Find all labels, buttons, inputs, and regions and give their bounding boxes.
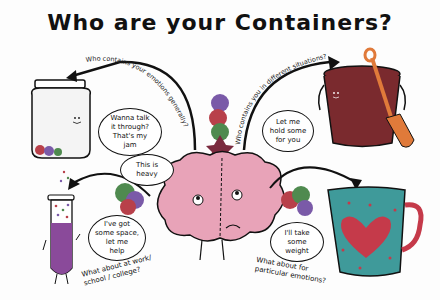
arrow-to-mug [270, 167, 355, 188]
emotion-blob-right-icon [281, 186, 313, 216]
speech-bubble-tube: I've got some space, let me help [88, 215, 146, 261]
speech-bubble-mug: I'll take some weight [270, 222, 324, 262]
brain-icon [158, 152, 285, 261]
jar-icon [32, 80, 91, 158]
speech-bubble-bucket: Let me hold some for you [262, 110, 314, 152]
bucket-icon [319, 66, 406, 147]
speech-bubble-jar: Wanna talk it through? That's my jam [98, 108, 162, 156]
illustration: Who contains your emotions generally? Wh… [0, 0, 440, 300]
speech-bubble-brain: This is heavy [120, 154, 174, 186]
mug-icon [328, 187, 421, 276]
test-tube-icon [43, 171, 80, 284]
